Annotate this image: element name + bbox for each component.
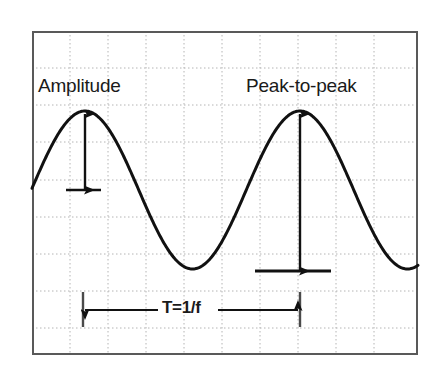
- amplitude-label: Amplitude: [38, 75, 121, 97]
- oscilloscope-svg: [0, 0, 441, 368]
- waveform-diagram-root: Amplitude Peak-to-peak T=1/f: [0, 0, 441, 368]
- peak-to-peak-annotation: [255, 114, 331, 271]
- peak-to-peak-label: Peak-to-peak: [246, 75, 357, 97]
- period-label: T=1/f: [162, 298, 201, 318]
- amplitude-annotation: [66, 114, 101, 190]
